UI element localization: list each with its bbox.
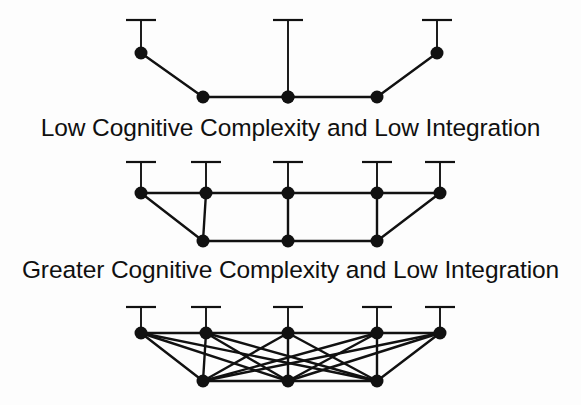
- edge-link: [377, 53, 437, 97]
- graph-node[interactable]: [135, 187, 148, 200]
- graph-node[interactable]: [197, 91, 210, 104]
- graph-node[interactable]: [200, 327, 213, 340]
- graph-node[interactable]: [371, 235, 384, 248]
- caption-greater-complexity-low-integration: Greater Cognitive Complexity and Low Int…: [0, 256, 581, 284]
- graph-node[interactable]: [282, 235, 295, 248]
- graph-node[interactable]: [197, 375, 210, 388]
- edge-link: [203, 193, 206, 241]
- edge-link: [203, 333, 206, 381]
- edge-link: [377, 193, 440, 241]
- graph-node[interactable]: [135, 47, 148, 60]
- graph-node[interactable]: [371, 187, 384, 200]
- graph-node[interactable]: [282, 91, 295, 104]
- edge-link: [141, 193, 203, 241]
- figure-container: Low Cognitive Complexity and Low Integra…: [0, 0, 581, 405]
- caption-low-complexity-low-integration: Low Cognitive Complexity and Low Integra…: [0, 114, 581, 142]
- node-diagram-canvas: [0, 0, 581, 405]
- graph-node[interactable]: [434, 327, 447, 340]
- graph-node[interactable]: [282, 375, 295, 388]
- edge-link: [141, 333, 377, 381]
- diagram-3: [126, 307, 455, 388]
- graph-node[interactable]: [135, 327, 148, 340]
- graph-node[interactable]: [371, 327, 384, 340]
- graph-node[interactable]: [434, 187, 447, 200]
- edge-link: [203, 333, 440, 381]
- graph-node[interactable]: [431, 47, 444, 60]
- edge-link: [141, 53, 203, 97]
- graph-node[interactable]: [371, 375, 384, 388]
- graph-node[interactable]: [197, 235, 210, 248]
- diagram-2: [126, 162, 455, 248]
- diagram-1: [126, 20, 452, 104]
- graph-node[interactable]: [282, 327, 295, 340]
- graph-node[interactable]: [200, 187, 213, 200]
- graph-node[interactable]: [282, 187, 295, 200]
- graph-node[interactable]: [371, 91, 384, 104]
